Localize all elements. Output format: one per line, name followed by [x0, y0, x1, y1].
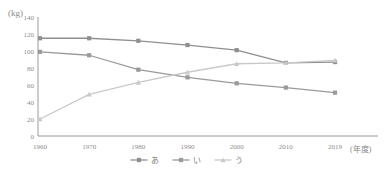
chart-legend: あいう	[131, 156, 243, 165]
chart-canvas: (kg) 140120100806040200 1960197019801990…	[0, 0, 391, 176]
data-point-marker	[38, 36, 42, 40]
data-point-marker	[185, 43, 189, 47]
y-tick-label: 80	[27, 65, 35, 73]
data-point-marker	[136, 68, 140, 72]
y-axis-tick-labels: 140120100806040200	[24, 14, 35, 141]
x-tick-label: 1960	[33, 143, 48, 151]
data-point-marker	[284, 85, 288, 89]
x-axis-unit-label: (年度)	[350, 144, 372, 154]
legend-label: い	[193, 156, 201, 165]
data-point-marker	[333, 91, 337, 95]
legend-item-3[interactable]: う	[215, 156, 243, 165]
y-tick-label: 100	[24, 48, 35, 56]
y-tick-label: 120	[24, 31, 35, 39]
data-point-marker	[185, 75, 189, 79]
legend-swatch-marker	[137, 158, 141, 162]
data-point-marker	[38, 50, 42, 54]
x-tick-label: 1980	[131, 143, 146, 151]
series-3	[37, 58, 337, 121]
data-point-marker	[87, 53, 91, 57]
line-chart: (kg) 140120100806040200 1960197019801990…	[0, 0, 391, 176]
legend-item-2[interactable]: い	[173, 156, 201, 165]
legend-item-1[interactable]: あ	[131, 156, 159, 165]
x-tick-label: 1970	[82, 143, 97, 151]
legend-label: う	[235, 156, 243, 165]
x-tick-label: 2000	[230, 143, 245, 151]
y-tick-label: 60	[27, 82, 35, 90]
series-1	[38, 36, 337, 65]
x-tick-label: 2019	[328, 143, 343, 151]
legend-swatch-marker	[179, 158, 183, 162]
y-tick-label: 0	[31, 133, 35, 141]
data-point-marker	[235, 81, 239, 85]
series-layer	[37, 36, 337, 121]
x-tick-label: 2010	[279, 143, 294, 151]
y-tick-label: 140	[24, 14, 35, 22]
y-axis-unit-label: (kg)	[8, 8, 23, 18]
x-axis-unit-text: (年度)	[350, 144, 372, 154]
legend-label: あ	[151, 156, 159, 165]
y-axis-unit-text: (kg)	[8, 8, 23, 18]
series-line	[40, 60, 335, 119]
data-point-marker	[235, 48, 239, 52]
x-axis-tick-labels: 1960197019801990200020102019	[33, 143, 343, 151]
data-point-marker	[87, 36, 91, 40]
x-tick-label: 1990	[181, 143, 196, 151]
series-line	[40, 38, 335, 63]
y-tick-label: 20	[27, 116, 35, 124]
data-point-marker	[136, 39, 140, 43]
y-tick-label: 40	[27, 99, 35, 107]
